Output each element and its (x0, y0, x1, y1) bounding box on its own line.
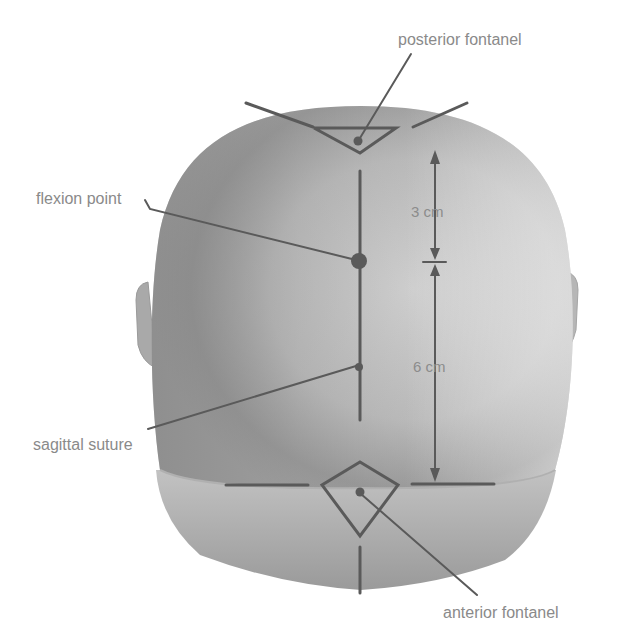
posterior-fontanel-dot (354, 137, 363, 146)
head-diagram (0, 0, 625, 643)
flexion-point-dot (351, 253, 367, 269)
sagittal-suture-dot (355, 363, 363, 371)
measurement-6cm: 6 cm (413, 359, 446, 374)
label-flexion-point: flexion point (36, 191, 121, 207)
label-anterior-fontanel: anterior fontanel (443, 605, 559, 621)
label-sagittal-suture: sagittal suture (33, 437, 133, 453)
label-posterior-fontanel: posterior fontanel (398, 32, 522, 48)
anterior-fontanel-dot (356, 488, 365, 497)
measurement-3cm: 3 cm (411, 204, 444, 219)
